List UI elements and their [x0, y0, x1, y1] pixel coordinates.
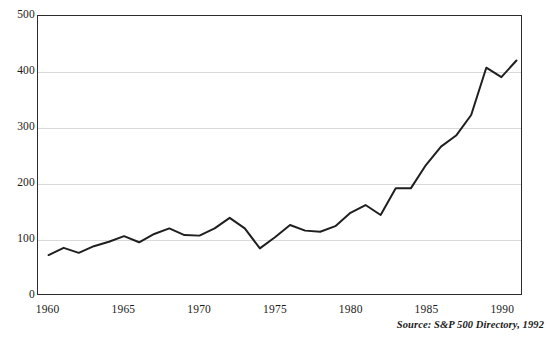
x-axis-tick-label: 1980 — [321, 303, 381, 315]
x-axis-tick-label: 1965 — [93, 303, 153, 315]
y-axis-tick-label: 300 — [1, 121, 35, 133]
y-axis-tick-label: 500 — [1, 9, 35, 21]
y-axis-tick-label: 400 — [1, 65, 35, 77]
x-axis-tick-label: 1970 — [169, 303, 229, 315]
y-axis-tick-label: 0 — [1, 289, 35, 301]
y-axis-tick-labels: 5004003002001000 — [0, 0, 35, 337]
x-axis-tick-label: 1960 — [18, 303, 78, 315]
y-axis-tick-label: 200 — [1, 177, 35, 189]
series-line-sp500 — [49, 60, 517, 255]
x-axis-tick-label: 1985 — [397, 303, 457, 315]
series-line-chart — [38, 16, 521, 294]
source-note: Source: S&P 500 Directory, 1992 — [397, 319, 544, 330]
chart-figure: 5004003002001000 19601965197019751980198… — [0, 0, 548, 337]
x-axis-tick-label: 1990 — [472, 303, 532, 315]
y-axis-tick-label: 100 — [1, 233, 35, 245]
plot-area — [37, 15, 522, 295]
x-axis-tick-label: 1975 — [245, 303, 305, 315]
